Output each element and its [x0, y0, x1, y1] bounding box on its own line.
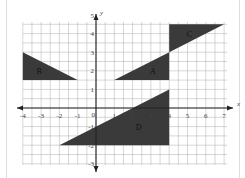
x-tick-label: 4 — [167, 112, 171, 120]
shape-label-a: A — [150, 67, 156, 76]
y-tick-label: -1 — [88, 123, 94, 131]
x-tick-label: -3 — [38, 112, 44, 120]
coordinate-grid: ABCDxy0-4-3-2-1123456754321-1-2-3 — [0, 0, 245, 178]
x-tick-label: 5 — [186, 112, 190, 120]
x-tick-label: 1 — [113, 112, 117, 120]
origin-label: 0 — [92, 111, 96, 119]
shape-label-b: B — [36, 67, 41, 76]
shape-label-c: C — [187, 30, 192, 39]
x-tick-label: 2 — [131, 112, 135, 120]
x-tick-label: -1 — [75, 112, 81, 120]
x-tick-label: -4 — [20, 112, 26, 120]
y-tick-label: 2 — [91, 67, 95, 75]
x-axis-label: x — [236, 100, 241, 108]
y-tick-label: -2 — [88, 142, 94, 150]
x-tick-label: 6 — [204, 112, 208, 120]
y-axis-arrow-up-icon — [94, 14, 99, 20]
x-tick-label: 7 — [222, 112, 226, 120]
x-tick-label: -2 — [56, 112, 62, 120]
x-tick-label: 3 — [149, 112, 153, 120]
y-tick-label: 5 — [91, 12, 95, 20]
y-axis-arrow-down-icon — [94, 166, 99, 172]
y-tick-label: 1 — [91, 86, 95, 94]
y-tick-label: -3 — [88, 160, 94, 168]
x-axis-arrow-left-icon — [17, 106, 23, 111]
y-axis-label: y — [99, 9, 104, 17]
shape-label-d: D — [136, 123, 142, 132]
y-tick-label: 3 — [91, 49, 95, 57]
x-axis-arrow-right-icon — [227, 106, 233, 111]
y-tick-label: 4 — [91, 30, 95, 38]
